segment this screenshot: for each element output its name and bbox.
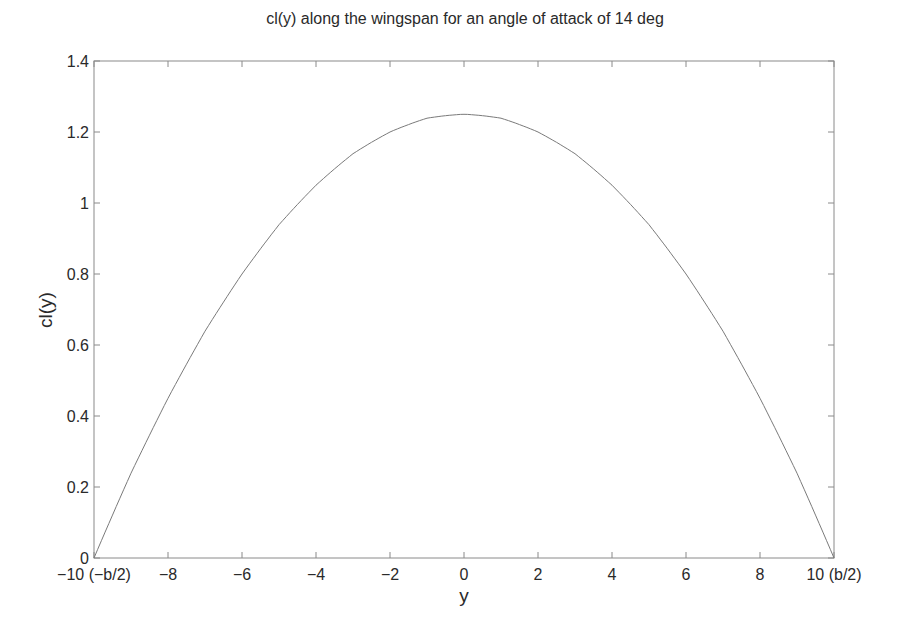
cl-curve: [94, 114, 834, 558]
x-tick-label: −6: [233, 566, 251, 583]
x-tick-label: 6: [682, 566, 691, 583]
x-tick-label: 10 (b/2): [806, 566, 861, 583]
chart-title: cl(y) along the wingspan for an angle of…: [266, 10, 664, 27]
x-axis-label: y: [459, 585, 469, 606]
x-tick-label: −2: [381, 566, 399, 583]
y-tick-label: 0.4: [67, 408, 89, 425]
x-tick-label: −10 (−b/2): [57, 566, 131, 583]
x-tick-label: −4: [307, 566, 325, 583]
x-axis: −10 (−b/2)−8−6−4−20246810 (b/2): [57, 61, 861, 583]
y-tick-label: 1: [80, 195, 89, 212]
y-tick-label: 0.6: [67, 337, 89, 354]
plot-frame: [94, 61, 834, 558]
y-tick-label: 0.2: [67, 479, 89, 496]
x-tick-label: −8: [159, 566, 177, 583]
x-tick-label: 0: [460, 566, 469, 583]
y-tick-label: 0.8: [67, 266, 89, 283]
y-tick-label: 0: [80, 550, 89, 567]
x-tick-label: 8: [756, 566, 765, 583]
x-tick-label: 4: [608, 566, 617, 583]
x-tick-label: 2: [534, 566, 543, 583]
chart: cl(y) along the wingspan for an angle of…: [0, 0, 907, 634]
y-tick-label: 1.4: [67, 53, 89, 70]
y-tick-label: 1.2: [67, 124, 89, 141]
y-axis-label: cl(y): [35, 292, 56, 328]
y-axis: 00.20.40.60.811.21.4: [67, 53, 834, 567]
